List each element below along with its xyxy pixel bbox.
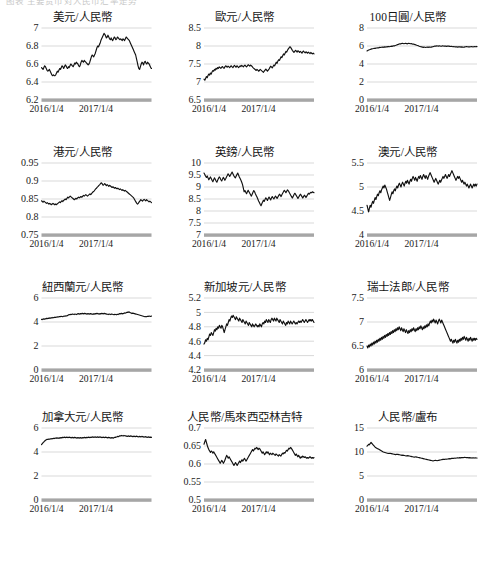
y-axis-tick-label: 6.8 [26, 40, 39, 51]
chart-plot-cad-cny: 02462016/1/42017/1/4 [0, 424, 165, 516]
x-axis-bar [204, 498, 314, 501]
x-axis-bar [367, 368, 477, 371]
y-axis-tick-label: 5 [196, 307, 201, 318]
x-axis-bar [204, 368, 314, 371]
chart-plot-aud-cny: 44.555.52016/1/42017/1/4 [325, 159, 491, 251]
y-axis-tick-label: 2 [34, 340, 39, 351]
chart-cell-cad-cny: 加拿大元/人民幣02462016/1/42017/1/4 [0, 409, 165, 554]
y-axis-tick-label: 5 [359, 470, 364, 481]
y-axis-tick-label: 0.9 [26, 175, 39, 186]
chart-title-gbp-cny: 英鎊/人民幣 [165, 144, 325, 159]
series-line [42, 33, 152, 75]
y-axis-tick-label: 4 [34, 316, 39, 327]
clipped-header-text: 图表 主要货币对人民币汇率走势 [6, 0, 137, 6]
y-axis-tick-label: 0.6 [189, 458, 202, 469]
chart-title-jpy100-cny: 100日圓/人民幣 [325, 9, 491, 24]
series-line [367, 319, 477, 348]
x-axis-tick-label: 2017/1/4 [405, 103, 439, 114]
x-axis-bar [204, 98, 314, 101]
chart-title-usd-cny: 美元/人民幣 [0, 9, 165, 24]
series-line [42, 435, 152, 444]
y-axis-tick-label: 7.5 [189, 58, 202, 69]
y-axis-tick-label: 9.5 [189, 169, 202, 180]
x-axis-bar [42, 498, 152, 501]
series-line [42, 312, 152, 320]
series-line [42, 183, 152, 205]
y-axis-tick-label: 7 [196, 76, 201, 87]
y-axis-tick-label: 7.5 [352, 292, 365, 303]
x-axis-tick-label: 2016/1/4 [355, 238, 389, 249]
chart-cell-usd-cny: 美元/人民幣6.26.46.66.872016/1/42017/1/4 [0, 9, 165, 144]
y-axis-tick-label: 4.6 [189, 336, 202, 347]
y-axis-tick-label: 8 [196, 205, 201, 216]
x-axis-tick-label: 2016/1/4 [355, 503, 389, 514]
x-axis-tick-label: 2017/1/4 [405, 503, 439, 514]
chart-title-chf-cny: 瑞士法郎/人民幣 [325, 279, 491, 294]
y-axis-tick-label: 5.5 [352, 157, 365, 168]
y-axis-tick-label: 8 [359, 22, 364, 33]
chart-cell-cny-myr: 人民幣/馬來西亞林吉特0.50.550.60.650.72016/1/42017… [165, 409, 325, 554]
series-line [204, 440, 314, 466]
y-axis-tick-label: 7 [359, 316, 364, 327]
series-line [204, 47, 314, 80]
series-line [204, 172, 314, 206]
chart-plot-cny-myr: 0.50.550.60.650.72016/1/42017/1/4 [165, 424, 325, 516]
chart-cell-aud-cny: 澳元/人民幣44.555.52016/1/42017/1/4 [325, 144, 491, 279]
y-axis-tick-label: 4.5 [352, 205, 365, 216]
chart-cell-gbp-cny: 英鎊/人民幣77.588.599.5102016/1/42017/1/4 [165, 144, 325, 279]
chart-plot-jpy100-cny: 024682016/1/42017/1/4 [325, 24, 491, 116]
series-line [367, 171, 477, 212]
chart-cell-jpy100-cny: 100日圓/人民幣024682016/1/42017/1/4 [325, 9, 491, 144]
x-axis-tick-label: 2017/1/4 [242, 103, 276, 114]
y-axis-tick-label: 5 [359, 181, 364, 192]
chart-title-aud-cny: 澳元/人民幣 [325, 144, 491, 159]
x-axis-tick-label: 2017/1/4 [79, 103, 113, 114]
y-axis-tick-label: 7 [34, 22, 39, 33]
chart-cell-cny-rub: 人民幣/盧布0510152016/1/42017/1/4 [325, 409, 491, 554]
chart-cell-nzd-cny: 紐西蘭元/人民幣02462016/1/42017/1/4 [0, 279, 165, 409]
x-axis-bar [42, 98, 152, 101]
x-axis-tick-label: 2016/1/4 [30, 238, 64, 249]
y-axis-tick-label: 0.65 [184, 440, 202, 451]
chart-plot-cny-rub: 0510152016/1/42017/1/4 [325, 424, 491, 516]
x-axis-tick-label: 2016/1/4 [30, 103, 64, 114]
chart-plot-nzd-cny: 02462016/1/42017/1/4 [0, 294, 165, 386]
x-axis-tick-label: 2016/1/4 [192, 103, 226, 114]
chart-plot-gbp-cny: 77.588.599.5102016/1/42017/1/4 [165, 159, 325, 251]
chart-plot-usd-cny: 6.26.46.66.872016/1/42017/1/4 [0, 24, 165, 116]
x-axis-tick-label: 2017/1/4 [405, 238, 439, 249]
x-axis-tick-label: 2016/1/4 [30, 503, 64, 514]
y-axis-tick-label: 15 [354, 422, 364, 433]
y-axis-tick-label: 2 [34, 470, 39, 481]
x-axis-tick-label: 2016/1/4 [192, 503, 226, 514]
y-axis-tick-label: 6.6 [26, 58, 39, 69]
y-axis-tick-label: 6 [359, 40, 364, 51]
x-axis-tick-label: 2017/1/4 [79, 373, 113, 384]
x-axis-bar [367, 233, 477, 236]
x-axis-tick-label: 2016/1/4 [30, 373, 64, 384]
x-axis-tick-label: 2017/1/4 [242, 373, 276, 384]
y-axis-tick-label: 7.5 [189, 217, 202, 228]
y-axis-tick-label: 0.55 [184, 476, 202, 487]
chart-title-cny-rub: 人民幣/盧布 [325, 409, 491, 424]
chart-plot-hkd-cny: 0.750.80.850.90.952016/1/42017/1/4 [0, 159, 165, 251]
chart-plot-chf-cny: 66.577.52016/1/42017/1/4 [325, 294, 491, 386]
y-axis-tick-label: 10 [191, 157, 201, 168]
x-axis-tick-label: 2016/1/4 [192, 238, 226, 249]
y-axis-tick-label: 0.85 [21, 193, 39, 204]
chart-cell-chf-cny: 瑞士法郎/人民幣66.577.52016/1/42017/1/4 [325, 279, 491, 409]
y-axis-tick-label: 5.2 [189, 292, 202, 303]
y-axis-tick-label: 8.5 [189, 193, 202, 204]
y-axis-tick-label: 8.5 [189, 22, 202, 33]
y-axis-tick-label: 2 [359, 76, 364, 87]
x-axis-bar [367, 498, 477, 501]
x-axis-tick-label: 2017/1/4 [79, 503, 113, 514]
y-axis-tick-label: 8 [196, 40, 201, 51]
y-axis-tick-label: 0.7 [189, 422, 202, 433]
y-axis-tick-label: 6 [34, 292, 39, 303]
chart-cell-sgd-cny: 新加坡元/人民幣4.24.44.64.855.22016/1/42017/1/4 [165, 279, 325, 409]
x-axis-tick-label: 2017/1/4 [242, 238, 276, 249]
y-axis-tick-label: 4.8 [189, 321, 202, 332]
x-axis-tick-label: 2017/1/4 [242, 503, 276, 514]
y-axis-tick-label: 6.4 [26, 76, 39, 87]
